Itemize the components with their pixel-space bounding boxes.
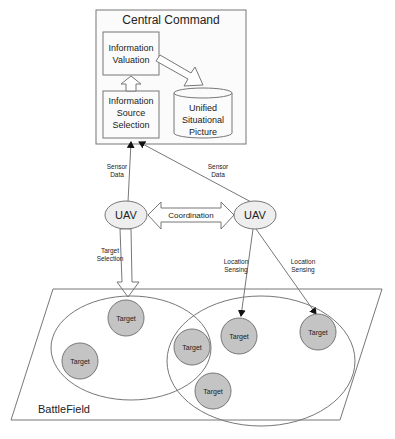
location-sensing-2a: Location [291,258,316,265]
sensor-data-line-right [139,142,253,203]
uav-left-label: UAV [115,209,137,221]
location-sensing-2b: Sensing [291,266,315,274]
location-sensing-1a: Location [224,258,249,265]
valuation-line-2: Valuation [113,55,150,65]
target-selection-arrow [117,229,139,297]
diagram: Central Command Information Valuation In… [0,0,395,439]
svg-text:Target: Target [308,329,328,337]
picture-line-2: Situational [182,115,224,125]
source-line-3: Selection [112,120,149,130]
sensor-data-left-2: Data [110,171,124,178]
central-command-title: Central Command [122,13,219,27]
svg-text:Target: Target [70,358,90,366]
source-line-2: Source [117,108,146,118]
picture-line-1: Unified [189,103,217,113]
source-line-1: Information [108,96,153,106]
target-5: Target [300,314,336,350]
sensor-data-line-left [128,142,131,202]
sensor-data-right-1: Sensor [208,163,229,170]
valuation-line-1: Information [108,43,153,53]
target-4: Target [221,318,257,354]
sensor-data-left-1: Sensor [107,163,128,170]
battlefield-label: BattleField [38,403,90,415]
sensor-data-right-2: Data [211,171,225,178]
target-selection-1: Target [101,247,119,255]
svg-text:Target: Target [203,388,223,396]
picture-line-3: Picture [189,127,217,137]
svg-text:Target: Target [229,333,249,341]
svg-text:Target: Target [182,344,202,352]
target-3: Target [174,329,210,365]
information-valuation-box [103,32,159,75]
location-sensing-1b: Sensing [224,266,248,274]
svg-text:Target: Target [116,315,136,323]
target-6: Target [195,373,231,409]
coordination-label: Coordination [168,211,213,220]
target-2: Target [62,343,98,379]
target-1: Target [108,300,144,336]
target-selection-2: Selection [97,255,124,262]
uav-right-label: UAV [244,209,266,221]
